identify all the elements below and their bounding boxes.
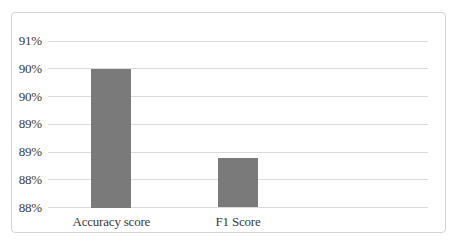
y-axis-tick-label: 88% (12, 199, 42, 217)
y-axis-tick-label: 90% (12, 60, 42, 78)
y-axis-tick-label: 88% (12, 171, 42, 189)
gridline (48, 41, 428, 42)
y-axis-tick-label: 90% (12, 88, 42, 106)
bar-accuracy-score (91, 69, 131, 208)
bar-f1-score (218, 158, 258, 208)
y-axis-tick-label: 89% (12, 115, 42, 133)
x-axis-category-label-f1-score: F1 Score (173, 213, 303, 231)
chart-frame: 91%90%90%89%89%88%88%Accuracy scoreF1 Sc… (11, 12, 446, 233)
x-axis-category-label-accuracy-score: Accuracy score (46, 213, 176, 231)
chart-canvas: 91%90%90%89%89%88%88%Accuracy scoreF1 Sc… (0, 0, 451, 248)
y-axis-tick-label: 91% (12, 32, 42, 50)
y-axis-tick-label: 89% (12, 143, 42, 161)
